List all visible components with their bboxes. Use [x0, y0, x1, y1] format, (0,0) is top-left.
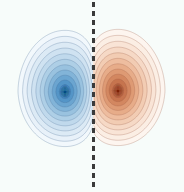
contour-plot-canvas	[0, 0, 184, 192]
contour-plot-figure	[0, 0, 184, 192]
